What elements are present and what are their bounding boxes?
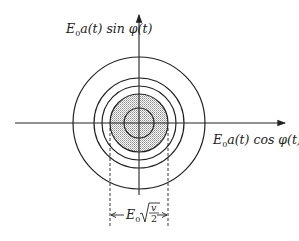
y-axis-label: E0a(t) sin φ(t): [65, 21, 153, 38]
x-axis-label: E0a(t) cos φ(t): [212, 132, 299, 149]
svg-text:v: v: [151, 202, 157, 213]
dimension-label: E0 v 2: [125, 202, 160, 224]
svg-text:E0: E0: [125, 207, 140, 224]
svg-text:2: 2: [151, 213, 157, 224]
constellation-diagram: E0a(t) sin φ(t) E0a(t) cos φ(t) E0 v 2: [0, 0, 299, 241]
